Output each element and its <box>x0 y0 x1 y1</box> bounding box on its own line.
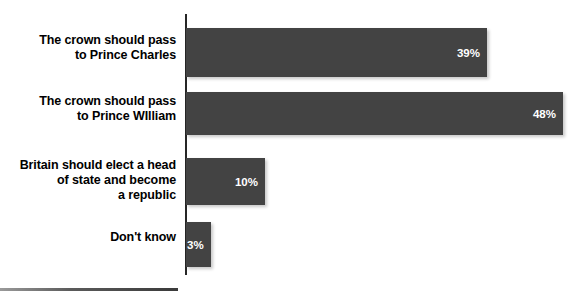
chart-row: The crown should passto Prince WIlliam 4… <box>0 92 575 135</box>
category-label-line: The crown should pass <box>39 94 176 108</box>
category-label: The crown should passto Prince WIlliam <box>0 94 176 124</box>
chart-row: The crown should passto Prince Charles 3… <box>0 28 575 77</box>
category-label-line: a republic <box>118 188 176 202</box>
bar-value-label: 3% <box>186 239 204 251</box>
category-label-line: The crown should pass <box>39 33 176 47</box>
bar-container: 48% <box>186 92 563 135</box>
category-label: The crown should passto Prince Charles <box>0 33 176 63</box>
category-label-line: Britain should elect a head <box>20 158 176 172</box>
chart-row: Britain should elect a headof state and … <box>0 158 575 205</box>
bar[interactable]: 10% <box>186 158 265 205</box>
bar[interactable]: 48% <box>186 92 563 135</box>
category-label: Britain should elect a headof state and … <box>0 158 176 203</box>
bar-container: 3% <box>186 222 211 267</box>
category-label-line: to Prince WIlliam <box>77 109 176 123</box>
bar-chart: The crown should passto Prince Charles 3… <box>0 0 575 297</box>
category-label-line: to Prince Charles <box>75 48 176 62</box>
bar-container: 10% <box>186 158 265 205</box>
bar[interactable]: 3% <box>186 222 211 267</box>
category-label: Don't know <box>0 230 176 245</box>
bar-container: 39% <box>186 28 487 77</box>
category-label-line: of state and become <box>57 173 176 187</box>
bar-value-label: 48% <box>533 108 563 120</box>
bottom-rule <box>0 288 178 291</box>
category-label-line: Don't know <box>110 230 176 244</box>
plot-area: The crown should passto Prince Charles 3… <box>0 0 575 297</box>
bar-value-label: 10% <box>235 176 265 188</box>
bar-value-label: 39% <box>457 47 487 59</box>
chart-row: Don't know 3% <box>0 222 575 267</box>
bar[interactable]: 39% <box>186 28 487 77</box>
